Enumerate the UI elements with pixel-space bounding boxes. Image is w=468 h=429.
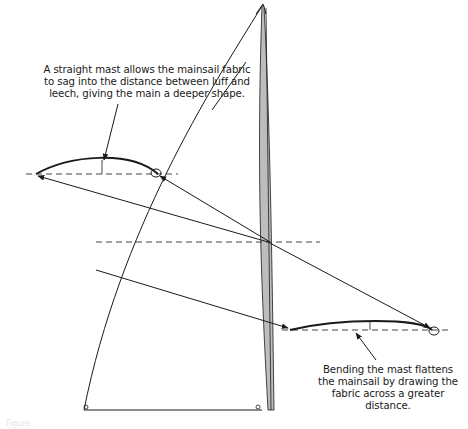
chord-lines bbox=[26, 174, 448, 330]
annotation-leaders bbox=[104, 62, 376, 360]
mast-section-icon bbox=[429, 327, 439, 335]
clew-ring-icon bbox=[256, 405, 260, 409]
section-flat bbox=[290, 321, 439, 335]
annotation-bent-mast: Bending the mast flattens the mainsail b… bbox=[318, 364, 458, 412]
annotation-straight-mast: A straight mast allows the mainsail fabr… bbox=[40, 64, 254, 100]
figure-caption: Figure bbox=[6, 419, 30, 428]
projection-lines bbox=[38, 176, 430, 328]
